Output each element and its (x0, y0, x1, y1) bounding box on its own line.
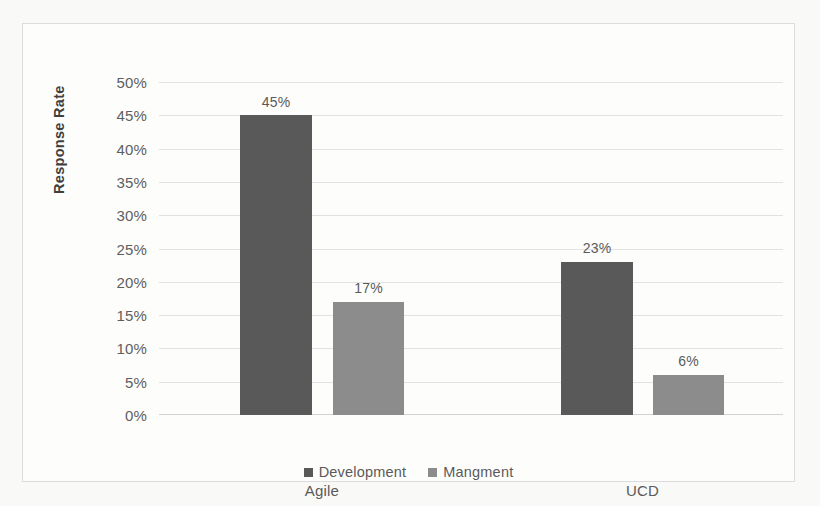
y-tick-45: 45% (87, 107, 147, 124)
y-tick-15: 15% (87, 307, 147, 324)
y-tick-35: 35% (87, 173, 147, 190)
y-tick-10: 10% (87, 340, 147, 357)
legend-label-development: Development (319, 464, 407, 480)
legend-swatch-icon-mangment (428, 468, 437, 477)
y-tick-5: 5% (87, 373, 147, 390)
y-tick-50: 50% (87, 74, 147, 91)
chart-legend: Development Mangment (23, 464, 794, 480)
y-axis-tick-labels: 50% 45% 40% 35% 30% 25% 20% 15% 10% 5% 0… (85, 82, 147, 415)
y-tick-20: 20% (87, 273, 147, 290)
bar-value-ucd-development: 23% (561, 240, 633, 256)
plot-area: 45% 17% 23% 6% Agile UCD (159, 82, 783, 415)
y-tick-0: 0% (87, 407, 147, 424)
bar-value-ucd-mangment: 6% (653, 353, 724, 369)
category-label-ucd: UCD (561, 482, 724, 499)
chart-frame: Response Rate 50% 45% 40% 35% 30% 25% 20… (22, 23, 795, 482)
legend-item-mangment[interactable]: Mangment (428, 464, 513, 480)
bar-agile-development[interactable] (240, 115, 312, 415)
legend-swatch-icon-development (304, 468, 313, 477)
bar-ucd-development[interactable] (561, 262, 633, 415)
y-tick-40: 40% (87, 140, 147, 157)
legend-item-development[interactable]: Development (304, 464, 407, 480)
gridline-50 (159, 82, 783, 83)
bar-value-agile-mangment: 17% (333, 280, 404, 296)
y-tick-30: 30% (87, 207, 147, 224)
bar-value-agile-development: 45% (240, 94, 312, 110)
y-axis-title: Response Rate (51, 85, 67, 194)
legend-label-mangment: Mangment (443, 464, 513, 480)
category-label-agile: Agile (240, 482, 404, 499)
y-tick-25: 25% (87, 240, 147, 257)
bar-agile-mangment[interactable] (333, 302, 404, 415)
page-background: Response Rate 50% 45% 40% 35% 30% 25% 20… (0, 0, 820, 506)
bar-ucd-mangment[interactable] (653, 375, 724, 415)
